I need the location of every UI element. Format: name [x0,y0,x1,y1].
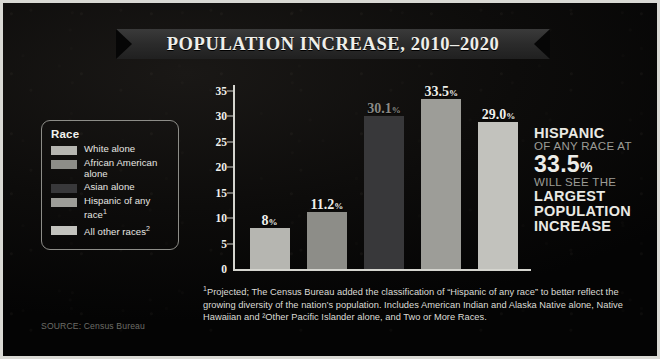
bar-value-percent: % [506,111,515,121]
y-axis-tick-label: 15 [216,187,228,199]
bar-value-number: 29.0 [482,107,507,122]
bar-value-label: 11.2% [310,195,343,213]
bar-value-percent: % [269,217,278,227]
y-axis-tick-label: 20 [216,161,228,173]
callout-line-6: POPULATION [534,204,652,219]
y-axis-tick-label: 10 [216,212,228,224]
legend-footnote-marker: 1 [103,208,107,215]
legend-swatch-icon [51,184,77,193]
callout-value: 33.5% [534,153,652,177]
y-axis-tick-label: 35 [216,85,228,97]
legend-item: White alone [51,144,170,155]
legend-item: Hispanic of any race1 [51,196,170,220]
bar-value-number: 8 [262,213,269,228]
legend-swatch-icon [51,226,77,235]
legend-item-label: Hispanic of any race1 [84,196,170,220]
legend-swatch-icon [51,198,77,207]
legend-item: African American alone [51,158,170,179]
legend-footnote-marker: 2 [146,225,150,232]
page-title: POPULATION INCREASE, 2010–2020 [116,29,550,59]
bar-value-percent: % [449,88,458,98]
y-axis-tick-label: 30 [216,110,228,122]
callout-line-5: LARGEST [534,189,652,204]
legend-swatch-icon [51,160,77,169]
bar [478,122,518,269]
title-ribbon: POPULATION INCREASE, 2010–2020 [116,29,550,59]
bar-value-label: 8% [262,211,278,229]
callout-line-7: INCREASE [534,219,652,234]
y-axis: 05101520253035 [201,85,235,269]
callout-panel: HISPANIC OF ANY RACE AT 33.5% WILL SEE T… [534,126,652,234]
bar-value-number: 33.5 [424,84,449,99]
legend-swatch-icon [51,146,77,155]
infographic-panel: POPULATION INCREASE, 2010–2020 Race Whit… [3,3,657,356]
bar-value-label: 30.1% [367,99,401,117]
bar-value-number: 30.1 [367,101,392,116]
bar [364,116,404,269]
callout-line-1: HISPANIC [534,126,652,141]
bar-value-number: 11.2 [310,197,334,212]
y-axis-tick-label: 25 [216,136,228,148]
bar-value-percent: % [334,201,343,211]
footnote-marker: 1 [203,285,207,292]
legend-heading: Race [51,128,170,140]
bar [250,228,290,269]
y-axis-line [233,85,235,270]
x-axis-baseline [233,269,531,271]
legend-item-label: White alone [84,144,135,155]
legend-item-label: All other races2 [84,224,150,238]
y-axis-tick-label: 0 [221,263,227,275]
legend-item-label: African American alone [84,158,170,179]
callout-value-number: 33.5 [534,151,580,177]
bar-value-label: 29.0% [482,105,516,123]
bar-value-percent: % [392,105,401,115]
bar [307,212,347,269]
bar-value-label: 33.5% [424,82,458,100]
bar [421,99,461,269]
infographic-frame: POPULATION INCREASE, 2010–2020 Race Whit… [0,0,660,359]
legend-items: White aloneAfrican American aloneAsian a… [51,144,170,237]
source-credit: SOURCE: Census Bureau [41,321,145,331]
footnote: 1Projected; The Census Bureau added the … [203,283,633,324]
legend-item-label: Asian alone [84,182,135,193]
legend-item: All other races2 [51,224,170,238]
legend-box: Race White aloneAfrican American aloneAs… [41,120,179,250]
bar-chart: 05101520253035 8%11.2%30.1%33.5%29.0% [201,85,531,275]
legend-item: Asian alone [51,182,170,193]
callout-value-percent: % [580,159,593,175]
